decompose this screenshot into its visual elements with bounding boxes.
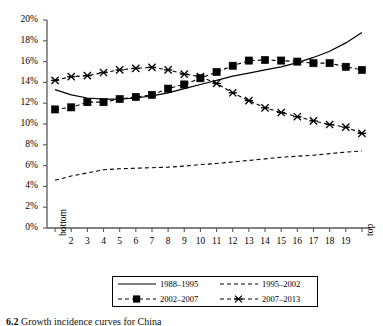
legend-line-sample: [117, 279, 157, 289]
figure-container: 0%2%4%6%8%10%12%14%16%18%20% bottom23456…: [0, 0, 383, 326]
legend-label: 2007–2013: [262, 294, 300, 304]
data-point-cross: [132, 65, 140, 72]
legend-label: 1995–2002: [262, 279, 300, 289]
y-axis-label: 14%: [8, 77, 38, 87]
legend-label: 2002–2007: [160, 294, 198, 304]
x-axis-label: bottom: [59, 190, 69, 236]
data-point-cross: [261, 104, 269, 111]
y-axis-label: 12%: [8, 98, 38, 108]
data-point-square: [278, 57, 285, 64]
data-point-square: [213, 68, 220, 75]
data-point-cross: [180, 70, 188, 77]
x-axis-label: 19: [336, 237, 356, 247]
y-axis-label: 4%: [8, 181, 38, 191]
data-point-square: [261, 56, 268, 63]
legend-line-sample: [219, 294, 259, 304]
legend-item: 2002–2007: [113, 294, 215, 304]
data-point-cross: [245, 97, 253, 104]
y-axis-label: 18%: [8, 36, 38, 46]
legend-item: 1988–1995: [113, 279, 215, 289]
data-point-square: [294, 58, 301, 65]
chart-legend: 1988–19951995–20022002–20072007–2013: [112, 276, 318, 307]
figure-caption: 6.2 Growth incidence curves for China: [6, 316, 383, 326]
legend-item: 2007–2013: [215, 294, 317, 304]
legend-item: 1995–2002: [215, 279, 317, 289]
y-axis-label: 8%: [8, 140, 38, 150]
data-point-cross: [99, 69, 107, 76]
y-axis-label: 10%: [8, 119, 38, 129]
y-axis-label: 16%: [8, 57, 38, 67]
legend-label: 1988–1995: [160, 279, 198, 289]
data-point-square: [245, 57, 252, 64]
data-point-square: [358, 66, 365, 73]
y-axis-label: 0%: [8, 223, 38, 233]
data-point-cross: [358, 130, 366, 137]
data-point-square: [148, 91, 155, 98]
data-point-square: [229, 62, 236, 69]
figure-caption-number: 6.2: [6, 316, 19, 326]
data-point-square: [84, 99, 91, 106]
data-point-square: [310, 60, 317, 67]
series-line-1995-2002: [55, 151, 362, 180]
y-axis-label: 20%: [8, 15, 38, 25]
data-point-cross: [67, 73, 75, 80]
data-point-square: [165, 85, 172, 92]
data-point-cross: [51, 77, 59, 84]
data-point-square: [51, 106, 58, 113]
data-point-square: [342, 63, 349, 70]
data-point-square: [68, 104, 75, 111]
data-point-cross: [309, 117, 317, 124]
y-axis-label: 2%: [8, 202, 38, 212]
data-point-cross: [325, 121, 333, 128]
data-point-square: [116, 95, 123, 102]
legend-line-sample: [117, 294, 157, 304]
data-point-cross: [148, 64, 156, 71]
figure-caption-text: Growth incidence curves for China: [21, 316, 162, 326]
x-axis-label: top: [366, 190, 376, 236]
data-point-cross: [164, 66, 172, 73]
data-point-cross: [83, 72, 91, 79]
data-point-cross: [293, 113, 301, 120]
data-point-square: [100, 99, 107, 106]
data-point-cross: [229, 89, 237, 96]
legend-marker-cross: [234, 295, 243, 302]
data-point-square: [181, 81, 188, 88]
y-axis-label: 6%: [8, 161, 38, 171]
data-point-square: [326, 60, 333, 67]
legend-line-sample: [219, 279, 259, 289]
data-point-cross: [277, 109, 285, 116]
legend-marker-square: [133, 295, 140, 302]
data-point-cross: [116, 66, 124, 73]
data-point-square: [132, 93, 139, 100]
data-point-cross: [342, 124, 350, 131]
